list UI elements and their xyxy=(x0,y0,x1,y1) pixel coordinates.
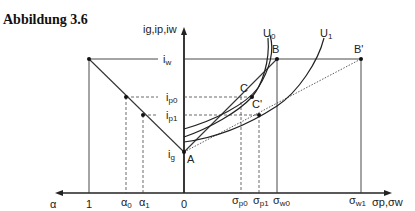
x-left-axis-label: α xyxy=(50,198,57,210)
dashed-guides xyxy=(126,97,259,193)
tick-sp1: σp1 xyxy=(253,194,269,208)
line-A-B xyxy=(184,59,277,152)
curve-U0-label: U0 xyxy=(263,27,276,41)
y-axis-arrow-icon xyxy=(181,27,187,35)
tick-zero: 0 xyxy=(181,198,187,210)
curve-U0 xyxy=(184,38,268,137)
point-Bprime-label: B' xyxy=(354,43,363,55)
tick-alpha0: α0 xyxy=(121,196,132,210)
point-A-label: A xyxy=(187,153,195,165)
tick-alpha1: α1 xyxy=(139,196,150,210)
tick-one: 1 xyxy=(86,198,92,210)
point-B-label: B xyxy=(272,43,279,55)
axes xyxy=(55,27,392,196)
tick-iw: iw xyxy=(163,53,171,67)
points xyxy=(87,57,363,154)
alpha-diagonal xyxy=(89,59,184,152)
curve-U1 xyxy=(184,38,324,142)
diagram: ig,ip,iw iw ip0 ip1 ig A B B' C C' U0 U1… xyxy=(0,0,415,211)
tick-sw0: σw0 xyxy=(273,194,291,208)
point-C-label: C xyxy=(240,82,248,94)
line-A-Bprime xyxy=(184,59,361,152)
tick-ip1: ip1 xyxy=(166,109,178,123)
y-axis-label: ig,ip,iw xyxy=(143,23,177,35)
curve-U1-label: U1 xyxy=(320,27,333,41)
x-right-axis-label: σp,σw xyxy=(372,196,403,208)
tick-ig: ig xyxy=(168,148,175,162)
x-axis-left-arrow-icon xyxy=(55,190,63,196)
tick-sw1: σw1 xyxy=(349,194,367,208)
tick-ip0: ip0 xyxy=(166,91,178,105)
point-Cprime-label: C' xyxy=(252,98,262,110)
tick-sp0: σp0 xyxy=(232,194,248,208)
